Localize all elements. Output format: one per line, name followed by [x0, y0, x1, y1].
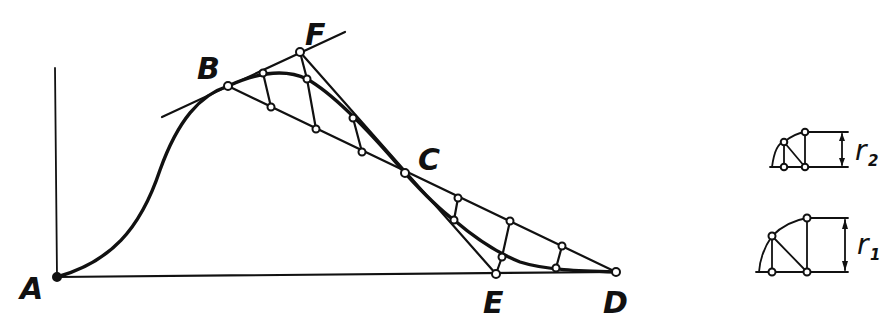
curve-construction-diagram: A B F C E D r 2 [0, 0, 885, 328]
construction-node [769, 269, 776, 276]
label-E: E [483, 285, 504, 320]
point-B-node [224, 82, 232, 90]
label-r1: r [857, 228, 870, 261]
radius-detail-r1: r 1 [756, 215, 880, 276]
r2-arrow-up-icon [839, 133, 845, 141]
point-D-node [612, 268, 620, 276]
strut-1 [263, 73, 271, 107]
label-r2-subscript: 2 [868, 152, 878, 170]
radius-detail-r2: r 2 [770, 129, 878, 171]
diagram-canvas: A B F C E D r 2 [0, 0, 885, 328]
construction-node [781, 164, 788, 171]
strut-5a [502, 221, 510, 257]
r1-arrow-up-icon [842, 219, 848, 229]
construction-node [507, 218, 514, 225]
r2-diagonal [784, 142, 805, 167]
construction-node [313, 126, 320, 133]
construction-node [559, 243, 566, 250]
point-A-node [53, 273, 61, 281]
r1-arrow-down-icon [842, 261, 848, 271]
construction-node [451, 217, 458, 224]
point-F-node [296, 48, 304, 56]
construction-node [260, 70, 267, 77]
construction-node [499, 254, 506, 261]
construction-node [769, 233, 776, 240]
construction-node [804, 269, 811, 276]
construction-node [304, 76, 311, 83]
vertical-axis [55, 68, 57, 277]
point-E-node [492, 270, 500, 278]
label-r2: r [855, 134, 868, 167]
label-F: F [305, 17, 326, 52]
tangent-line-FE [300, 52, 496, 274]
label-r1-subscript: 1 [870, 246, 880, 264]
strut-2b [307, 79, 316, 129]
construction-node [359, 149, 366, 156]
r1-diagonal [772, 236, 807, 272]
r2-arrow-down-icon [839, 158, 845, 166]
construction-node [802, 164, 809, 171]
construction-node [268, 104, 275, 111]
point-C-node [401, 169, 409, 177]
chord-B-to-D [228, 86, 616, 272]
construction-node [781, 139, 788, 146]
label-B: B [197, 51, 220, 86]
label-D: D [603, 285, 628, 320]
baseline-AD [57, 272, 616, 277]
construction-node [802, 129, 809, 136]
label-C: C [418, 142, 440, 177]
construction-node [804, 215, 811, 222]
construction-node [350, 115, 357, 122]
construction-node [455, 195, 462, 202]
curve-A-to-B [57, 86, 228, 277]
label-A: A [18, 271, 43, 306]
construction-node [553, 265, 560, 272]
